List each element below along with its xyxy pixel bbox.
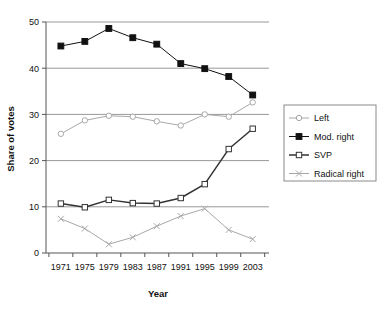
y-tick-label: 20 <box>29 156 39 166</box>
data-point <box>202 66 208 72</box>
data-point <box>130 114 135 119</box>
line-chart: 01020304050 1971197519791983198719911995… <box>0 0 379 311</box>
x-tick-label: 1999 <box>219 262 239 272</box>
data-point <box>250 100 255 105</box>
data-point <box>202 181 207 186</box>
y-tick-label: 0 <box>34 248 39 258</box>
y-tick-label: 10 <box>29 202 39 212</box>
data-point <box>106 26 112 32</box>
data-point <box>154 119 159 124</box>
chart-legend: LeftMod. rightSVPRadical right <box>284 105 376 181</box>
data-point <box>202 112 207 117</box>
legend-label: Mod. right <box>314 132 355 142</box>
data-point <box>130 200 135 205</box>
x-tick-label: 1987 <box>147 262 167 272</box>
data-point <box>58 43 64 49</box>
data-point <box>296 152 301 157</box>
data-point <box>226 114 231 119</box>
y-axis-title: Share of votes <box>5 106 16 171</box>
legend-label: Left <box>314 113 330 123</box>
x-axis-tick-labels: 197119751979198319871991199519992003 <box>51 262 263 272</box>
x-tick-label: 2003 <box>243 262 263 272</box>
data-point <box>82 118 87 123</box>
data-point <box>130 35 136 41</box>
y-tick-label: 50 <box>29 17 39 27</box>
data-point <box>296 115 301 120</box>
x-tick-label: 1995 <box>195 262 215 272</box>
data-point <box>226 146 231 151</box>
data-point <box>58 131 63 136</box>
legend-label: SVP <box>314 150 332 160</box>
data-point <box>250 92 256 98</box>
x-tick-label: 1979 <box>99 262 119 272</box>
data-point <box>106 113 111 118</box>
x-tick-label: 1975 <box>75 262 95 272</box>
legend-label: Radical right <box>314 169 365 179</box>
chart-figure: 01020304050 1971197519791983198719911995… <box>0 0 379 311</box>
data-point <box>250 126 255 131</box>
data-point <box>178 123 183 128</box>
x-axis-title: Year <box>148 288 168 299</box>
data-point <box>154 201 159 206</box>
data-point <box>82 39 88 45</box>
data-point <box>178 61 184 67</box>
x-tick-label: 1983 <box>123 262 143 272</box>
data-point <box>296 134 302 140</box>
y-tick-label: 40 <box>29 64 39 74</box>
data-point <box>106 197 111 202</box>
data-point <box>226 74 232 80</box>
data-point <box>82 205 87 210</box>
data-point <box>58 201 63 206</box>
data-point <box>154 41 160 47</box>
data-point <box>178 195 183 200</box>
x-tick-label: 1971 <box>51 262 71 272</box>
x-tick-label: 1991 <box>171 262 191 272</box>
y-tick-label: 30 <box>29 110 39 120</box>
